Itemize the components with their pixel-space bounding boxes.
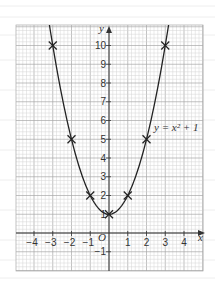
- y-tick-label: 9: [100, 59, 106, 70]
- curve-equation-label: y = x² + 1: [153, 121, 198, 133]
- y-tick-label: −1: [95, 246, 107, 257]
- x-tick-label: −4: [26, 237, 38, 248]
- y-tick-label: 2: [100, 190, 106, 201]
- y-tick-label: 8: [100, 78, 106, 89]
- x-tick-label: −2: [64, 237, 76, 248]
- y-tick-label: 6: [100, 115, 106, 126]
- x-tick-label: 2: [144, 237, 150, 248]
- y-tick-label: 7: [100, 96, 106, 107]
- x-axis-label: x: [197, 231, 203, 243]
- x-tick-label: −1: [83, 237, 95, 248]
- y-tick-label: 10: [95, 40, 107, 51]
- y-tick-label: 5: [100, 134, 106, 145]
- x-tick-label: 4: [181, 237, 187, 248]
- y-axis-label: y: [98, 22, 104, 34]
- parabola-graph: −4−3−2−11234−112345678910 y x O y = x² +…: [0, 0, 215, 284]
- x-tick-label: 1: [125, 237, 131, 248]
- origin-label: O: [98, 231, 106, 243]
- x-tick-label: −3: [45, 237, 57, 248]
- y-tick-label: 3: [100, 171, 106, 182]
- x-tick-label: 3: [162, 237, 168, 248]
- y-tick-label: 4: [100, 153, 106, 164]
